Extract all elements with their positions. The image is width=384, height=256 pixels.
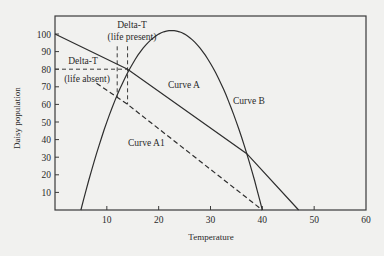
delta-t-life-absent-sub: (life absent) — [64, 74, 110, 85]
y-axis-ticks: 102030405060708090100 — [37, 30, 59, 198]
curve-a-label: Curve A — [168, 80, 200, 90]
curve-a1-label: Curve A1 — [128, 138, 165, 148]
y-tick-label: 60 — [42, 100, 52, 110]
delta-t-life-present-sub: (life present) — [108, 32, 157, 43]
x-tick-label: 40 — [258, 215, 268, 225]
y-tick-label: 40 — [42, 135, 52, 145]
plot-frame — [55, 16, 366, 210]
y-tick-label: 70 — [42, 82, 52, 92]
x-tick-label: 50 — [309, 215, 319, 225]
x-tick-label: 60 — [361, 215, 371, 225]
y-tick-label: 10 — [42, 188, 52, 198]
y-tick-label: 30 — [42, 153, 52, 163]
x-tick-label: 20 — [154, 215, 164, 225]
x-axis-title: Temperature — [188, 232, 233, 242]
y-tick-label: 90 — [42, 47, 52, 57]
delta-t-life-absent-label: Delta-T — [68, 56, 98, 66]
y-tick-label: 50 — [42, 118, 52, 128]
delta-t-life-present-label: Delta-T — [117, 20, 147, 30]
curve-b-label: Curve B — [233, 96, 265, 106]
y-tick-label: 100 — [37, 30, 52, 40]
y-tick-label: 80 — [42, 65, 52, 75]
daisy-population-chart: 102030405060708090100 102030405060 Delta… — [0, 0, 384, 256]
x-axis-ticks: 102030405060 — [102, 206, 371, 225]
x-tick-label: 30 — [206, 215, 216, 225]
curve-a-line — [81, 31, 262, 211]
y-axis-title: Daisy population — [12, 87, 22, 149]
y-tick-label: 20 — [42, 170, 52, 180]
x-tick-label: 10 — [102, 215, 112, 225]
